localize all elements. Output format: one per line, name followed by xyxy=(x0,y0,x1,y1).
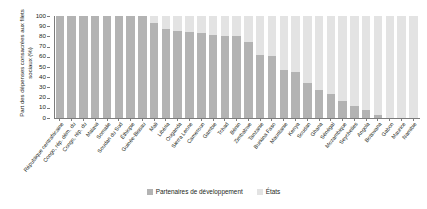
x-axis-tick-label: Tchad xyxy=(216,121,230,136)
x-axis-label-slot: Mali xyxy=(148,121,160,169)
bar-slot[interactable] xyxy=(219,16,231,118)
x-axis-tick-labels: République centrafricaineCongo, rép. dém… xyxy=(54,121,419,169)
bar-slot[interactable] xyxy=(384,16,396,118)
bar-slot[interactable] xyxy=(136,16,148,118)
legend-item[interactable]: États xyxy=(257,188,281,195)
bar-segment-etats xyxy=(315,16,323,90)
bar-segment-partenaires xyxy=(221,36,229,118)
stacked-bar[interactable] xyxy=(268,16,276,118)
bar-slot[interactable] xyxy=(148,16,160,118)
y-axis-tick-mark xyxy=(47,26,50,27)
stacked-bar[interactable] xyxy=(303,16,311,118)
stacked-bar[interactable] xyxy=(315,16,323,118)
bar-slot[interactable] xyxy=(113,16,125,118)
bar-slot[interactable] xyxy=(396,16,408,118)
bar-segment-partenaires xyxy=(103,16,111,118)
stacked-bar[interactable] xyxy=(162,16,170,118)
bar-segment-partenaires xyxy=(162,29,170,118)
stacked-bar[interactable] xyxy=(115,16,123,118)
stacked-bar[interactable] xyxy=(232,16,240,118)
bar-slot[interactable] xyxy=(101,16,113,118)
y-axis-tick-label: 60 xyxy=(39,52,46,59)
stacked-bar[interactable] xyxy=(350,16,358,118)
stacked-bar[interactable] xyxy=(280,16,288,118)
bar-slot[interactable] xyxy=(243,16,255,118)
bar-slot[interactable] xyxy=(231,16,243,118)
legend-item[interactable]: Partenaires de développement xyxy=(147,188,243,195)
bar-segment-partenaires xyxy=(362,110,370,118)
bar-segment-partenaires xyxy=(115,16,123,118)
y-axis-tick-mark xyxy=(47,98,50,99)
bar-slot[interactable] xyxy=(66,16,78,118)
stacked-bar[interactable] xyxy=(173,16,181,118)
stacked-bar[interactable] xyxy=(126,16,134,118)
bar-slot[interactable] xyxy=(89,16,101,118)
bar-slot[interactable] xyxy=(407,16,419,118)
stacked-bar[interactable] xyxy=(150,16,158,118)
stacked-bar[interactable] xyxy=(409,16,417,118)
chart-figure: Part des dépenses consacrées aux filets … xyxy=(0,0,427,209)
bar-slot[interactable] xyxy=(313,16,325,118)
bar-segment-partenaires xyxy=(280,70,288,118)
bar-segment-partenaires xyxy=(244,42,252,119)
y-axis-tick-mark xyxy=(47,36,50,37)
bar-segment-etats xyxy=(209,16,217,35)
stacked-bar[interactable] xyxy=(374,16,382,118)
stacked-bar[interactable] xyxy=(103,16,111,118)
legend-label: Partenaires de développement xyxy=(156,188,243,195)
stacked-bar[interactable] xyxy=(386,16,394,118)
bar-segment-partenaires xyxy=(327,94,335,118)
bar-slot[interactable] xyxy=(266,16,278,118)
bar-segment-partenaires xyxy=(232,36,240,118)
bar-slot[interactable] xyxy=(195,16,207,118)
bar-slot[interactable] xyxy=(278,16,290,118)
bar-segment-partenaires xyxy=(338,101,346,118)
x-axis-label-slot: Namibie xyxy=(407,121,419,169)
stacked-bar[interactable] xyxy=(291,16,299,118)
bar-slot[interactable] xyxy=(125,16,137,118)
bar-segment-partenaires xyxy=(150,23,158,118)
bar-slot[interactable] xyxy=(301,16,313,118)
y-axis-tick-label: 20 xyxy=(39,93,46,100)
bar-segment-partenaires xyxy=(209,35,217,118)
stacked-bar[interactable] xyxy=(397,16,405,118)
stacked-bar[interactable] xyxy=(185,16,193,118)
bar-slot[interactable] xyxy=(172,16,184,118)
stacked-bar[interactable] xyxy=(209,16,217,118)
stacked-bar[interactable] xyxy=(244,16,252,118)
bar-segment-etats xyxy=(327,16,335,94)
stacked-bar[interactable] xyxy=(91,16,99,118)
bar-segment-partenaires xyxy=(303,83,311,118)
x-axis-label-slot: Gambie xyxy=(207,121,219,169)
bar-slot[interactable] xyxy=(160,16,172,118)
x-axis-label-slot: Angola xyxy=(360,121,372,169)
bar-slot[interactable] xyxy=(325,16,337,118)
bar-slot[interactable] xyxy=(54,16,66,118)
bar-slot[interactable] xyxy=(349,16,361,118)
stacked-bar[interactable] xyxy=(327,16,335,118)
bar-segment-etats xyxy=(244,16,252,42)
bar-slot[interactable] xyxy=(207,16,219,118)
bar-slot[interactable] xyxy=(360,16,372,118)
bar-slot[interactable] xyxy=(78,16,90,118)
x-axis-label-slot: Cameroun xyxy=(195,121,207,169)
y-axis-tick-mark xyxy=(47,77,50,78)
bar-slot[interactable] xyxy=(372,16,384,118)
stacked-bar[interactable] xyxy=(56,16,64,118)
bar-slot[interactable] xyxy=(184,16,196,118)
x-axis-label-slot: Botswana xyxy=(372,121,384,169)
stacked-bar[interactable] xyxy=(256,16,264,118)
stacked-bar[interactable] xyxy=(79,16,87,118)
bar-slot[interactable] xyxy=(337,16,349,118)
bar-segment-partenaires xyxy=(315,90,323,118)
stacked-bar[interactable] xyxy=(197,16,205,118)
stacked-bar[interactable] xyxy=(67,16,75,118)
stacked-bar[interactable] xyxy=(221,16,229,118)
bar-slot[interactable] xyxy=(290,16,302,118)
stacked-bar[interactable] xyxy=(338,16,346,118)
legend-swatch xyxy=(147,189,153,195)
bar-slot[interactable] xyxy=(254,16,266,118)
bar-segment-etats xyxy=(303,16,311,83)
stacked-bar[interactable] xyxy=(362,16,370,118)
stacked-bar[interactable] xyxy=(138,16,146,118)
